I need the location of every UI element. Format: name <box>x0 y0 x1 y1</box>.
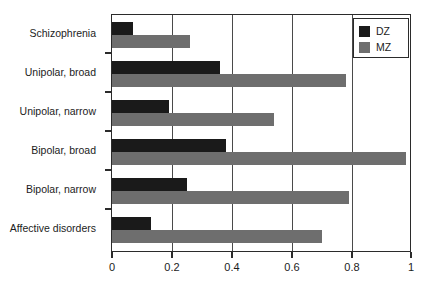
x-axis-tick <box>351 252 353 258</box>
y-axis-tick <box>105 91 111 93</box>
y-axis-label-bipolar-narrow: Bipolar, narrow <box>26 184 96 195</box>
legend-item-dz: DZ <box>359 23 408 39</box>
x-axis-tick <box>111 252 113 258</box>
y-axis-label-affective-disorders: Affective disorders <box>10 223 96 234</box>
legend-swatch-dz-icon <box>359 26 370 37</box>
x-axis-tick <box>231 252 233 258</box>
x-axis-tick-label-1: 1 <box>408 261 414 273</box>
bar-mz-schizophrenia <box>112 35 190 48</box>
bar-mz-bipolar-narrow <box>112 191 349 204</box>
bar-dz-bipolar-broad <box>112 139 226 152</box>
bar-dz-unipolar-narrow <box>112 100 169 113</box>
bar-mz-unipolar-narrow <box>112 113 274 126</box>
y-axis-label-bipolar-broad: Bipolar, broad <box>31 145 96 156</box>
x-axis-tick-label-0.8: 0.8 <box>344 261 359 273</box>
bar-mz-affective-disorders <box>112 230 322 243</box>
y-axis-tick <box>105 208 111 210</box>
bar-chart: Schizophrenia Unipolar, broad Unipolar, … <box>0 0 435 282</box>
y-axis-label-unipolar-narrow: Unipolar, narrow <box>20 106 96 117</box>
y-axis-tick <box>105 169 111 171</box>
y-axis-tick <box>105 130 111 132</box>
legend-swatch-mz-icon <box>359 42 370 53</box>
bar-dz-schizophrenia <box>112 22 133 35</box>
x-axis-tick <box>171 252 173 258</box>
legend-label-mz: MZ <box>376 42 391 53</box>
x-axis-tick <box>410 252 412 258</box>
y-axis-label-schizophrenia: Schizophrenia <box>29 28 96 39</box>
y-axis-tick <box>105 52 111 54</box>
x-axis-tick-label-0.6: 0.6 <box>284 261 299 273</box>
y-axis-label-unipolar-broad: Unipolar, broad <box>25 67 96 78</box>
x-axis-tick <box>291 252 293 258</box>
chart-legend: DZ MZ <box>353 18 409 58</box>
legend-label-dz: DZ <box>376 26 390 37</box>
bar-dz-affective-disorders <box>112 217 151 230</box>
bar-mz-unipolar-broad <box>112 74 346 87</box>
x-axis-tick-label-0: 0 <box>109 261 115 273</box>
x-axis-tick-label-0.4: 0.4 <box>224 261 239 273</box>
x-axis-tick-label-0.2: 0.2 <box>164 261 179 273</box>
bar-dz-unipolar-broad <box>112 61 220 74</box>
legend-item-mz: MZ <box>359 39 408 55</box>
bar-dz-bipolar-narrow <box>112 178 187 191</box>
bar-mz-bipolar-broad <box>112 152 406 165</box>
